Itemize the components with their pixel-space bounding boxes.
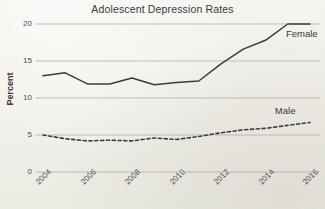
series-line-male xyxy=(43,122,310,141)
plot-area xyxy=(0,0,325,209)
series-line-female xyxy=(43,24,310,85)
x-axis-tick-marks xyxy=(43,172,310,176)
y-axis-tick-marks xyxy=(36,24,40,172)
chart-container: Adolescent Depression Rates Percent 0510… xyxy=(0,0,325,209)
gridlines xyxy=(40,24,320,172)
data-series-lines xyxy=(43,24,310,141)
